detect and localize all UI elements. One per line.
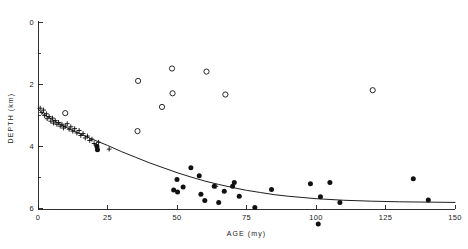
filled-circle-marker <box>212 184 217 189</box>
plus-marker <box>107 147 112 152</box>
series-open-circles <box>63 66 376 134</box>
open-circle-marker <box>223 92 228 97</box>
open-circle-marker <box>63 111 68 116</box>
y-tick-label: 2 <box>29 80 34 89</box>
filled-circle-marker <box>222 189 227 194</box>
filled-circle-marker <box>232 180 237 185</box>
series-plus-markers <box>38 106 219 189</box>
open-circle-marker <box>159 104 164 109</box>
subsidence-fit-curve <box>38 109 455 203</box>
open-circle-marker <box>169 66 174 71</box>
filled-circle-marker <box>337 200 342 205</box>
figure-container: 02460255075100125150 DEPTH (km)AGE (my) <box>0 0 468 249</box>
open-circle-marker <box>370 88 375 93</box>
filled-circle-marker <box>252 205 257 210</box>
x-tick-label: 75 <box>242 213 251 222</box>
x-tick-label: 25 <box>103 213 112 222</box>
x-tick-label: 125 <box>379 213 393 222</box>
x-tick-label: 100 <box>309 213 323 222</box>
filled-circle-marker <box>269 187 274 192</box>
open-circle-marker <box>135 129 140 134</box>
filled-circle-marker <box>411 176 416 181</box>
axes-group: 02460255075100125150 <box>29 18 461 222</box>
x-tick-label: 0 <box>36 213 41 222</box>
filled-circle-marker <box>216 200 221 205</box>
x-tick-label: 150 <box>448 213 462 222</box>
filled-circle-marker <box>308 181 313 186</box>
y-tick-label: 0 <box>29 18 34 27</box>
filled-circle-marker <box>175 177 180 182</box>
filled-circle-marker <box>197 173 202 178</box>
x-axis-title: AGE (my) <box>227 230 267 238</box>
filled-circle-marker <box>181 184 186 189</box>
open-circle-marker <box>170 91 175 96</box>
filled-circle-marker <box>95 147 100 152</box>
filled-circle-marker <box>318 194 323 199</box>
open-circle-marker <box>204 69 209 74</box>
y-axis-title: DEPTH (km) <box>7 93 15 144</box>
filled-circle-marker <box>327 180 332 185</box>
open-circle-marker <box>135 78 140 83</box>
plus-marker <box>96 140 101 145</box>
filled-circle-marker <box>202 198 207 203</box>
filled-circle-marker <box>426 197 431 202</box>
data-points-group <box>38 66 431 227</box>
filled-circle-marker <box>188 165 193 170</box>
filled-circle-marker <box>198 192 203 197</box>
filled-circle-marker <box>237 194 242 199</box>
x-tick-label: 50 <box>172 213 181 222</box>
y-tick-label: 6 <box>29 204 34 213</box>
filled-circle-marker <box>175 189 180 194</box>
filled-circle-marker <box>316 222 321 227</box>
scatter-plot: 02460255075100125150 DEPTH (km)AGE (my) <box>0 0 468 249</box>
fit-curve <box>38 109 455 203</box>
y-tick-label: 4 <box>29 142 34 151</box>
